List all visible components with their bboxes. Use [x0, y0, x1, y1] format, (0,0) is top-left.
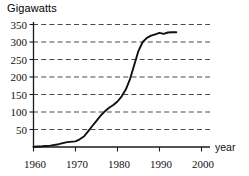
y-tick-label-100: 100 — [11, 106, 28, 118]
y-tick-label-250: 250 — [11, 54, 28, 66]
x-tick-label-1980: 1980 — [108, 158, 131, 170]
gridlines — [33, 25, 210, 130]
x-tick-label-1990: 1990 — [150, 158, 173, 170]
chart-container: Gigawatts — [0, 0, 249, 176]
y-tick-label-300: 300 — [11, 36, 28, 48]
x-tick-label-1960: 1960 — [24, 158, 47, 170]
y-tick-label-150: 150 — [11, 89, 28, 101]
x-tick-label-2000: 2000 — [192, 158, 215, 170]
x-axis-title: year — [215, 141, 236, 153]
y-tick-label-50: 50 — [16, 124, 28, 136]
x-axis-tick-marks — [34, 147, 202, 152]
data-curve-nuclear-capacity — [34, 32, 177, 147]
axes — [33, 22, 210, 148]
y-tick-label-350: 350 — [11, 19, 28, 31]
y-axis-tick-labels: 350 300 250 200 150 100 50 — [11, 19, 28, 136]
x-tick-label-1970: 1970 — [66, 158, 89, 170]
y-tick-label-200: 200 — [11, 71, 28, 83]
line-chart-svg: 350 300 250 200 150 100 50 1960 1970 198… — [0, 0, 249, 176]
x-axis-tick-labels: 1960 1970 1980 1990 2000 — [24, 158, 215, 170]
